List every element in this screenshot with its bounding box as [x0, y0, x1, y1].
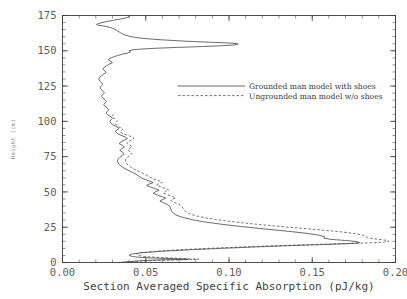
y-tick-label: 150 [38, 44, 57, 56]
y-tick-label: 25 [44, 221, 57, 233]
y-tick-label: 50 [44, 186, 57, 198]
legend-label: Ungrounded man model w/o shoes [249, 92, 383, 101]
x-tick-label: 0.20 [383, 266, 407, 278]
y-tick-label: 0 [50, 256, 56, 268]
legend-label: Grounded man model with shoes [249, 82, 376, 91]
y-tick-label: 125 [38, 80, 57, 92]
x-tick-label: 0.05 [133, 266, 158, 278]
x-axis-title: Section Averaged Specific Absorption (pJ… [83, 280, 374, 293]
x-tick-label: 0.10 [216, 266, 241, 278]
y-tick-label: 100 [38, 115, 57, 127]
figure-background [0, 0, 407, 299]
y-axis-title: Height (cm) [10, 119, 17, 159]
y-tick-label: 175 [38, 9, 57, 21]
y-tick-label: 75 [44, 150, 57, 162]
chart-canvas: 0.000.050.100.150.20 0255075100125150175… [0, 0, 407, 299]
chart-figure: 0.000.050.100.150.20 0255075100125150175… [0, 0, 407, 299]
x-tick-label: 0.15 [300, 266, 325, 278]
